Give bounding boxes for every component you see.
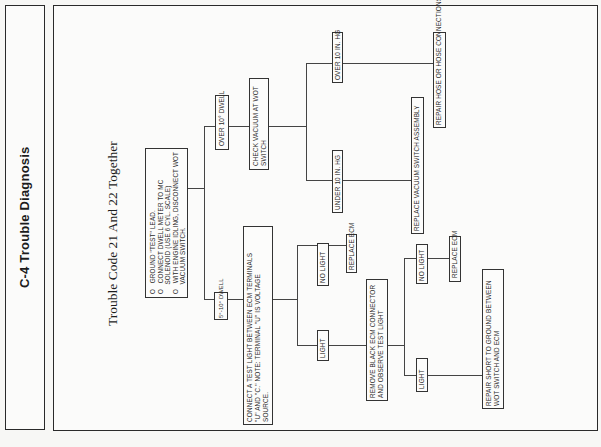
- replace-ecm-text-2: REPLACE ECM: [451, 231, 459, 278]
- side-title: C-4 Trouble Diagnosis: [17, 147, 32, 288]
- connector: [306, 63, 307, 181]
- connector: [297, 345, 367, 346]
- connector: [388, 345, 404, 346]
- no-light-text-1: NO LIGHT: [319, 252, 327, 283]
- repair-hose-text: REPAIR HOSE OR HOSE CONNECTIONS: [435, 0, 443, 125]
- connector: [297, 245, 298, 346]
- under-10-hg-text: UNDER 10 IN. HG: [334, 155, 342, 210]
- start-steps-text: o GROUND "TEST" LEAD. o CONNECT DWELL ME…: [149, 152, 187, 294]
- over-10-hg-text: OVER 10 IN. HG: [334, 30, 342, 80]
- repair-short-text: REPAIR SHORT TO GROUND BETWEEN WOT SWITC…: [485, 280, 501, 406]
- over-10-dwell-text: OVER 10° DWELL: [218, 91, 226, 146]
- diagram-subtitle: Trouble Code 21 And 22 Together: [105, 141, 121, 326]
- light-text-2: LIGHT: [418, 369, 426, 389]
- connector: [306, 63, 433, 64]
- connector: [404, 258, 405, 376]
- replace-vacuum-switch-text: REPLACE VACUUM SWITCH ASSEMBLY: [413, 105, 421, 231]
- 5-10-dwell-text: 5°-10° DWELL: [217, 278, 225, 318]
- remove-black-ecm-text: REMOVE BLACK ECM CONNECTOR AND OBSERVE T…: [369, 285, 385, 398]
- replace-ecm-text-1: REPLACE ECM: [348, 223, 356, 270]
- diagram-frame: [53, 5, 598, 431]
- connector: [306, 180, 412, 181]
- check-vacuum-text: CHECK VACUUM AT WOT SWITCH: [252, 86, 268, 166]
- connector: [204, 126, 205, 300]
- no-light-text-2: NO LIGHT: [418, 250, 426, 281]
- connector: [269, 126, 306, 127]
- connector: [188, 188, 204, 189]
- light-text-1: LIGHT: [319, 338, 327, 358]
- connect-test-light-text: CONNECT A TEST LIGHT BETWEEN ECM TERMINA…: [246, 253, 270, 422]
- connector: [273, 299, 297, 300]
